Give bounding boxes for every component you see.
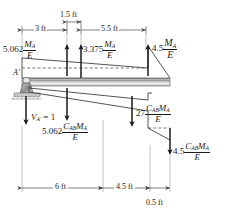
upper-mid-load-label: 3.375 MA E <box>83 40 116 60</box>
lower-left-denominator: E <box>62 133 88 142</box>
upper-mid-denominator: E <box>103 51 116 60</box>
reaction-subscript: A' <box>37 116 42 122</box>
lower-mid-denominator: E <box>145 115 171 124</box>
lower-right-coefficient: 4.5 <box>173 146 184 156</box>
upper-right-denominator: E <box>163 50 177 60</box>
beam-diagram-figure: 1.5 ft 3 ft 5.5 ft 5.062 MA E 3.375 MA E… <box>0 0 230 220</box>
lower-right-denominator: E <box>184 153 210 162</box>
dim-label-0-5ft: 0.5 ft <box>146 198 163 207</box>
lower-mid-load-label: 27 CABMA E <box>136 104 171 124</box>
lower-left-load-label: 5.062 CABMA E <box>42 122 88 142</box>
beam-member <box>22 78 170 86</box>
upper-left-load-label: 5.062 MA E <box>3 40 36 60</box>
dim-label-3ft: 3 ft <box>34 24 47 33</box>
dim-label-1-5ft: 1.5 ft <box>60 10 77 19</box>
support-label: A' <box>13 69 20 77</box>
upper-left-coefficient: 5.062 <box>3 44 23 54</box>
dim-label-4-5ft: 4.5 ft <box>114 182 135 191</box>
upper-right-load-label: 4.5 MA E <box>152 38 177 60</box>
upper-left-denominator: E <box>23 51 36 60</box>
lower-right-load-label: 4.5 CABMA E <box>173 142 210 162</box>
reaction-equals: = 1 <box>43 112 55 122</box>
upper-mid-coefficient: 3.375 <box>83 44 103 54</box>
upper-right-coefficient: 4.5 <box>152 43 163 53</box>
dim-label-6ft: 6 ft <box>53 182 68 191</box>
lower-left-coefficient: 5.062 <box>42 126 62 136</box>
dim-label-5-5ft: 5.5 ft <box>100 24 119 33</box>
upper-right-numerator: MA <box>163 38 177 50</box>
lower-mid-coefficient: 27 <box>136 108 145 118</box>
